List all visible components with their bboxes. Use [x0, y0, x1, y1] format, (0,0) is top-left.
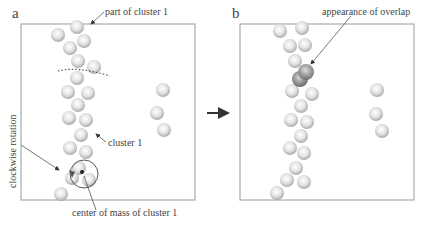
panel-a: a — [7, 5, 195, 218]
panel-a-frame — [21, 24, 195, 200]
panel-b: b appearan — [232, 5, 414, 200]
panel-b-label: b — [232, 5, 240, 21]
cluster-spheres — [270, 21, 389, 200]
center-of-mass-dot — [80, 170, 84, 174]
part-of-cluster-label: part of cluster 1 — [105, 6, 168, 17]
overlap-label: appearance of overlap — [322, 6, 410, 17]
part-cluster-pointer — [91, 12, 104, 24]
cluster-boundary-dotted-line — [58, 69, 110, 76]
panel-b-frame — [240, 24, 414, 200]
rotation-label: clockwise rotation — [7, 114, 18, 188]
cluster-label: cluster 1 — [108, 137, 142, 148]
figure-canvas: a — [0, 0, 431, 225]
overlap-pointer — [311, 16, 351, 64]
cluster-pointer — [96, 134, 106, 142]
rotation-pointer — [21, 145, 59, 170]
panel-a-label: a — [12, 5, 19, 21]
cluster-spheres — [51, 20, 171, 201]
center-of-mass-label: center of mass of cluster 1 — [72, 207, 177, 218]
